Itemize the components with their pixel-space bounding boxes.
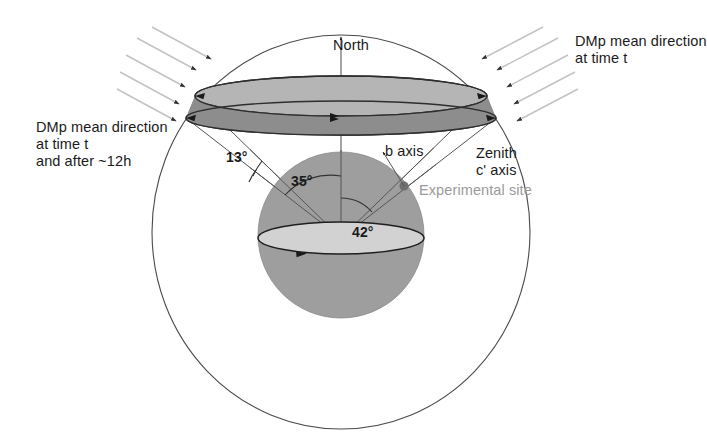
label-angle-13: 13° <box>226 149 247 166</box>
equator-ellipse <box>258 222 424 254</box>
label-dmp-direction-time-t: DMp mean direction at time t <box>575 33 707 67</box>
dmp-band <box>186 76 496 135</box>
label-angle-35: 35° <box>291 173 312 190</box>
label-zenith-c-prime-axis: Zenith c' axis <box>476 145 517 179</box>
label-experimental-site: Experimental site <box>419 182 532 199</box>
label-dmp-direction-time-t-and-after-12h: DMp mean direction at time t and after ~… <box>36 119 168 170</box>
label-angle-42: 42° <box>352 224 373 241</box>
label-b-axis: b axis <box>385 143 423 160</box>
arrow-group-right <box>482 27 578 121</box>
label-north: North <box>333 37 369 54</box>
